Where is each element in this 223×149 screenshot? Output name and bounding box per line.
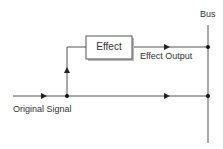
junction-dot-bus-effect (206, 45, 210, 49)
bus-label: Bus (200, 10, 216, 19)
arrow-right-icon (164, 93, 170, 99)
junction-dot-split (65, 94, 69, 98)
effect-output-label: Effect Output (140, 52, 192, 61)
arrow-up-icon (64, 67, 70, 73)
arrow-right-icon (41, 93, 47, 99)
junction-dot-bus-dry (206, 94, 210, 98)
arrow-right-icon (164, 44, 170, 50)
signal-flow-diagram (0, 0, 223, 149)
original-signal-label: Original Signal (13, 105, 72, 114)
effect-box-label: Effect (86, 42, 132, 52)
